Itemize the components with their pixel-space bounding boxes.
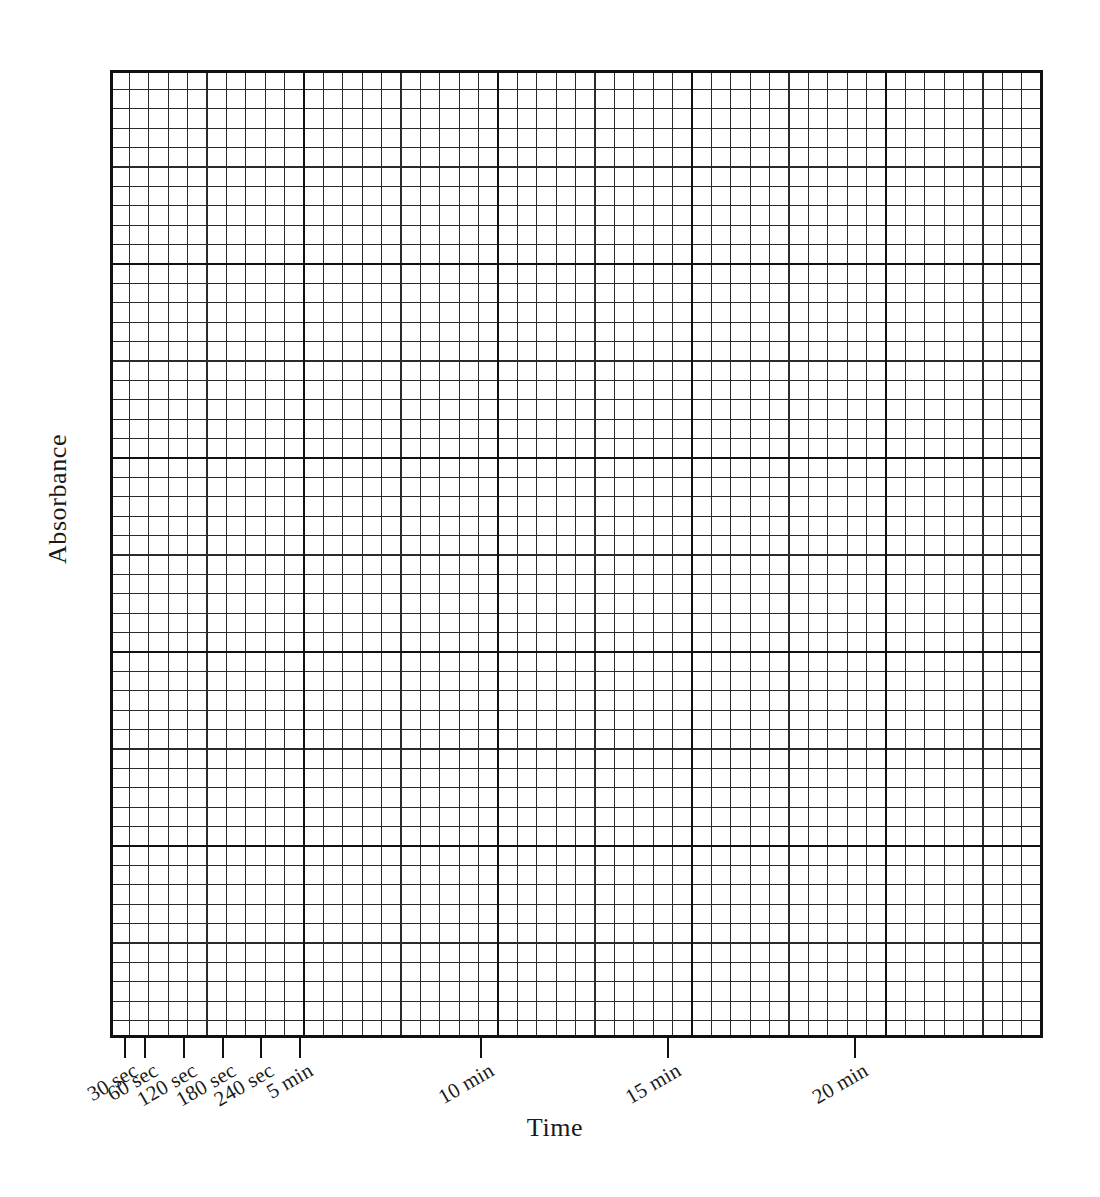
x-tick-mark <box>260 1038 262 1058</box>
x-axis-title-text: Time <box>527 1113 583 1143</box>
x-tick-mark <box>124 1038 126 1058</box>
x-tick-label: 20 min <box>808 1058 873 1110</box>
x-tick-mark <box>144 1038 146 1058</box>
grid-lines-svg <box>110 70 1043 1038</box>
x-tick-mark <box>667 1038 669 1058</box>
x-tick-mark <box>854 1038 856 1058</box>
x-axis-tick-labels: 30 sec60 sec120 sec180 sec240 sec5 min10… <box>0 1058 1100 1118</box>
y-axis-title-text: Absorbance <box>43 434 72 564</box>
plot-grid-area <box>110 70 1043 1038</box>
x-tick-label: 10 min <box>434 1058 499 1110</box>
x-tick-label: 15 min <box>621 1058 686 1110</box>
y-axis-title: Absorbance <box>43 389 73 609</box>
x-axis-tick-marks <box>0 1038 1100 1060</box>
x-tick-mark <box>480 1038 482 1058</box>
x-axis-title: Time <box>0 1113 1100 1143</box>
plot-border <box>112 72 1042 1037</box>
x-tick-mark <box>299 1038 301 1058</box>
minor-gridlines <box>110 70 1043 1038</box>
x-tick-mark <box>183 1038 185 1058</box>
major-gridlines <box>110 70 1043 1038</box>
x-tick-mark <box>222 1038 224 1058</box>
graph-paper-figure: 30 sec60 sec120 sec180 sec240 sec5 min10… <box>0 0 1100 1197</box>
